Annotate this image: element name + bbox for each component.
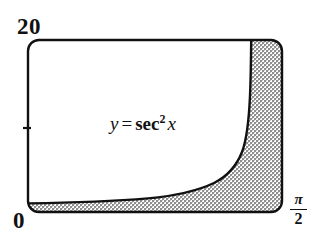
denominator-two: 2 (290, 210, 307, 228)
equation-equals-sign: = (118, 113, 135, 134)
figure-container: 20 0 π 2 y=sec2x (0, 0, 317, 243)
x-axis-max-label: π 2 (290, 192, 307, 228)
equation-variable-x: x (165, 113, 175, 134)
origin-label: 0 (13, 209, 25, 232)
y-axis-max-label: 20 (17, 15, 41, 38)
curve-equation-label: y=sec2x (110, 113, 176, 135)
equation-sec-function: sec (135, 113, 159, 134)
pi-symbol: π (290, 192, 307, 209)
